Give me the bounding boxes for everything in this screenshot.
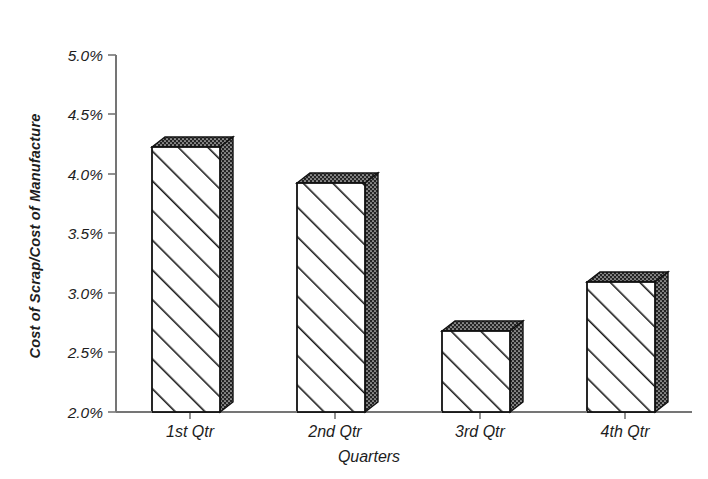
y-tick-label: 2.0% (67, 404, 104, 421)
bar-front-face (442, 331, 510, 412)
bar-group-3rd-qtr[interactable] (442, 321, 523, 412)
y-tick-label: 5.0% (68, 47, 104, 64)
bar-chart: 5.0% 4.5% 4.0% 3.5% 3.0% 2.5% 2.0% Cost … (0, 0, 708, 479)
bar-front-face (587, 282, 655, 412)
y-axis-title: Cost of Scrap/Cost of Manufacture (27, 113, 43, 358)
bar-side-face (510, 321, 523, 412)
bar-group-1st-qtr[interactable] (152, 137, 233, 412)
y-tick-label: 3.5% (68, 225, 104, 242)
bar-group-2nd-qtr[interactable] (297, 173, 378, 412)
bar-side-face (365, 173, 378, 412)
x-tick-label: 2nd Qtr (307, 423, 362, 440)
bar-side-face (655, 272, 668, 412)
x-tick-label: 1st Qtr (166, 423, 215, 440)
y-tick-label: 3.0% (68, 285, 104, 302)
x-axis-title: Quarters (338, 448, 400, 465)
y-tick-label: 2.5% (67, 344, 104, 361)
chart-canvas: 5.0% 4.5% 4.0% 3.5% 3.0% 2.5% 2.0% Cost … (0, 0, 708, 479)
x-tick-label: 3rd Qtr (455, 423, 505, 440)
y-tick-label: 4.0% (68, 166, 104, 183)
bar-group-4th-qtr[interactable] (587, 272, 668, 412)
x-tick-label: 4th Qtr (601, 423, 651, 440)
y-tick-label: 4.5% (68, 106, 104, 123)
bar-front-face (152, 147, 220, 412)
bar-side-face (220, 137, 233, 412)
bar-front-face (297, 183, 365, 412)
